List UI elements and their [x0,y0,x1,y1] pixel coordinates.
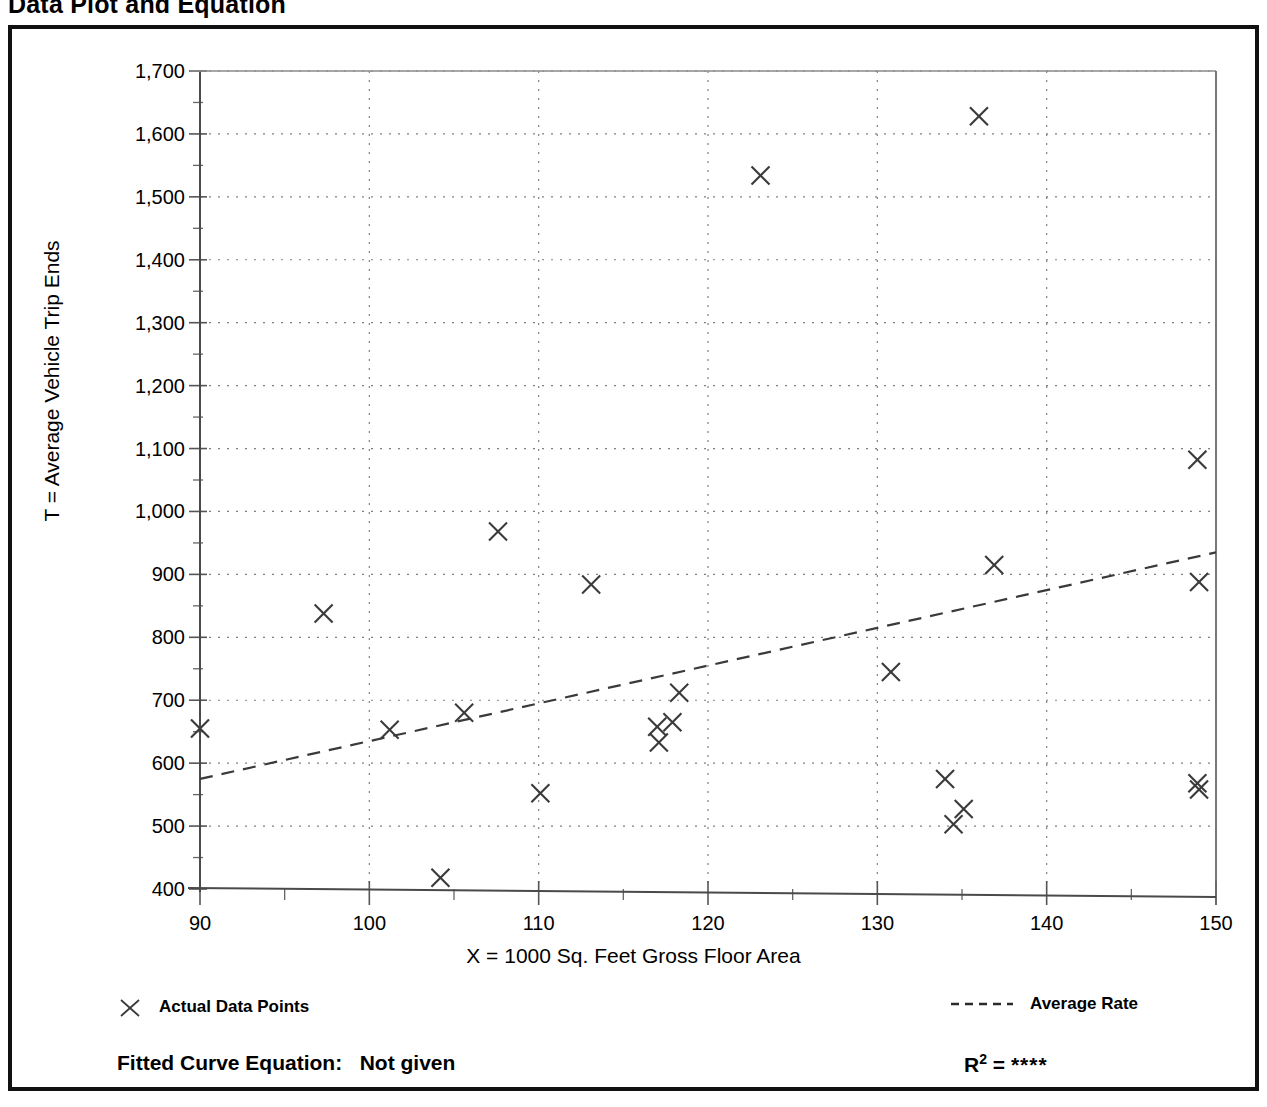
data-point-marker [882,663,900,681]
x-marker-icon [117,994,143,1020]
chart-frame: 4005006007008009001,0001,1001,2001,3001,… [8,25,1259,1091]
data-point-marker [431,869,449,887]
x-axis-title: X = 1000 Sq. Feet Gross Floor Area [12,944,1255,968]
y-axis-tick-label: 1,600 [95,124,185,144]
data-point-marker [1188,451,1206,469]
data-point-marker [955,800,973,818]
legend-item-actual-data-points: Actual Data Points [117,994,309,1020]
x-axis-tick-label: 110 [499,913,579,933]
y-axis-tick-label: 900 [95,564,185,584]
x-axis-tick-label: 140 [1007,913,1087,933]
data-point-marker [381,721,399,739]
axis-ticks [189,71,1216,905]
legend-label-actual-data-points: Actual Data Points [159,997,309,1017]
y-axis-tick-label: 1,400 [95,250,185,270]
y-axis-tick-label: 700 [95,690,185,710]
y-axis-tick-label: 800 [95,627,185,647]
chart-legend: Actual Data Points Average Rate [12,994,1255,1034]
y-axis-tick-label: 1,500 [95,187,185,207]
data-point-marker [1188,774,1206,792]
y-axis-tick-label: 600 [95,753,185,773]
fitted-curve-equation-value: Not given [360,1051,456,1074]
axis-lines [188,71,1216,905]
data-point-marker [650,733,668,751]
r-squared-stars: **** [1011,1053,1048,1076]
data-point-marker [751,166,769,184]
dashed-line-icon [950,997,1014,1011]
y-axis-tick-label: 1,300 [95,313,185,333]
data-point-marker [670,684,688,702]
data-point-marker [1190,781,1208,799]
data-point-marker [663,713,681,731]
chart-area: 4005006007008009001,0001,1001,2001,3001,… [12,29,1255,1087]
data-point-marker [945,815,963,833]
legend-label-average-rate: Average Rate [1030,994,1138,1014]
y-axis-title: T = Average Vehicle Trip Ends [40,181,64,581]
data-point-marker [970,107,988,125]
x-axis-tick-label: 150 [1176,913,1256,933]
x-axis-tick-label: 90 [160,913,240,933]
r-squared-exponent: 2 [979,1051,987,1067]
data-point-markers [191,107,1208,886]
data-point-marker [582,575,600,593]
page-title: Data Plot and Equation [8,0,286,19]
data-point-marker [936,770,954,788]
chart-footer: Fitted Curve Equation: Not given R2 = **… [12,1047,1255,1091]
grid-lines [200,71,1216,889]
fitted-curve-equation-label: Fitted Curve Equation: [117,1051,342,1074]
fitted-curve-equation: Fitted Curve Equation: Not given [117,1051,455,1075]
y-axis-tick-label: 1,100 [95,439,185,459]
y-axis-tick-label: 400 [95,879,185,899]
r-squared-equals: = [993,1053,1005,1076]
data-point-marker [985,556,1003,574]
r-squared-value: R2 = **** [964,1051,1048,1077]
y-axis-tick-label: 1,700 [95,61,185,81]
data-point-marker [1190,573,1208,591]
y-axis-tick-label: 1,000 [95,501,185,521]
x-axis-tick-label: 120 [668,913,748,933]
r-squared-label: R [964,1053,979,1076]
data-point-marker [315,604,333,622]
x-axis-tick-label: 100 [329,913,409,933]
legend-item-average-rate: Average Rate [950,994,1138,1014]
data-point-marker [489,523,507,541]
x-axis-tick-label: 130 [837,913,917,933]
y-axis-tick-label: 500 [95,816,185,836]
y-axis-tick-label: 1,200 [95,376,185,396]
data-point-marker [531,784,549,802]
